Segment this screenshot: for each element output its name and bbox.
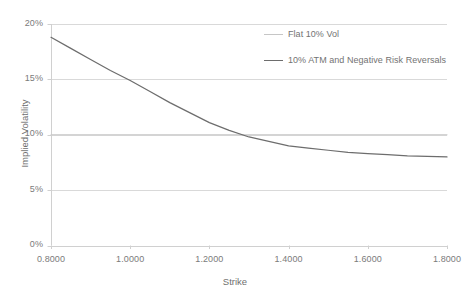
y-tick-label-0: 0% bbox=[9, 239, 43, 249]
chart-legend: Flat 10% Vol10% ATM and Negative Risk Re… bbox=[264, 25, 446, 77]
x-tick-label-3: 1.4000 bbox=[259, 254, 319, 264]
legend-item-0[interactable]: Flat 10% Vol bbox=[264, 25, 446, 43]
x-axis-title: Strike bbox=[0, 276, 470, 287]
legend-line-icon bbox=[264, 34, 283, 35]
legend-label-0: Flat 10% Vol bbox=[288, 29, 339, 39]
x-tick-label-5: 1.8000 bbox=[417, 254, 470, 264]
y-axis-title: Implied Volatility bbox=[19, 64, 30, 204]
legend-item-1[interactable]: 10% ATM and Negative Risk Reversals bbox=[264, 51, 446, 69]
x-tick-label-4: 1.6000 bbox=[338, 254, 398, 264]
x-tick-label-1: 1.0000 bbox=[100, 254, 160, 264]
x-tick-label-0: 0.8000 bbox=[21, 254, 81, 264]
legend-line-icon bbox=[264, 60, 283, 61]
implied-volatility-chart: 0%5%10%15%20% 0.80001.00001.20001.40001.… bbox=[0, 0, 470, 296]
y-tick-label-4: 20% bbox=[9, 18, 43, 28]
x-tick-label-2: 1.2000 bbox=[179, 254, 239, 264]
legend-label-1: 10% ATM and Negative Risk Reversals bbox=[288, 55, 446, 65]
y-axis-ticks bbox=[48, 25, 52, 247]
